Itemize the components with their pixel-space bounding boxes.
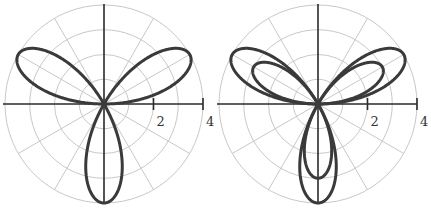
- tick-label: 4: [206, 114, 214, 129]
- polar-chart-2: 24: [217, 4, 428, 204]
- polar-chart-1: 24: [3, 4, 214, 204]
- tick-label: 4: [420, 114, 428, 129]
- polar-charts: 2424: [0, 0, 431, 221]
- tick-label: 2: [371, 114, 379, 129]
- tick-label: 2: [157, 114, 165, 129]
